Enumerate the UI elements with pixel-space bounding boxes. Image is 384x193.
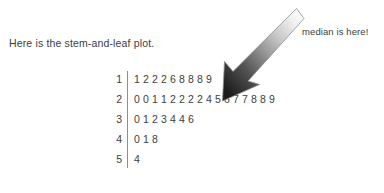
- leaf-digit: 1: [143, 129, 152, 149]
- stem-value: 3: [108, 109, 122, 129]
- leaf-digit: 2: [161, 69, 170, 89]
- stem-leaf-rows: 1 122268889 2 0011222245677889 3 0123446…: [108, 69, 278, 169]
- leaf-digit: 5: [215, 89, 224, 109]
- leaf-digit: 8: [152, 129, 161, 149]
- page-caption: Here is the stem-and-leaf plot.: [9, 37, 154, 49]
- leaf-digit: 9: [269, 89, 278, 109]
- callout-label: median is here!: [302, 26, 368, 37]
- leaf-digit: 1: [161, 89, 170, 109]
- leaf-digit: 8: [251, 89, 260, 109]
- leaf-digit: 2: [152, 109, 161, 129]
- leaf-digit: 8: [179, 69, 188, 89]
- leaf-digit: 2: [179, 89, 188, 109]
- table-row: 2 0011222245677889: [108, 89, 278, 109]
- table-row: 3 0123446: [108, 109, 278, 129]
- stem-value: 2: [108, 89, 122, 109]
- stem-value: 5: [108, 149, 122, 169]
- leaf-values: 122268889: [134, 69, 215, 89]
- leaf-values: 4: [134, 149, 143, 169]
- leaf-digit: 9: [206, 69, 215, 89]
- leaf-digit: 0: [134, 109, 143, 129]
- table-row: 1 122268889: [108, 69, 278, 89]
- table-row: 4 018: [108, 129, 278, 149]
- table-row: 5 4: [108, 149, 278, 169]
- leaf-digit: 2: [170, 89, 179, 109]
- leaf-digit: 1: [152, 89, 161, 109]
- leaf-digit: 4: [179, 109, 188, 129]
- leaf-digit: 7: [242, 89, 251, 109]
- leaf-digit: 0: [134, 89, 143, 109]
- leaf-digit: 4: [170, 109, 179, 129]
- leaf-digit: 8: [260, 89, 269, 109]
- leaf-digit: 7: [233, 89, 242, 109]
- leaf-digit: 4: [134, 149, 143, 169]
- leaf-digit: 6: [188, 109, 197, 129]
- leaf-digit: 8: [188, 69, 197, 89]
- stem-and-leaf-plot: 1 122268889 2 0011222245677889 3 0123446…: [108, 69, 278, 169]
- leaf-digit: 8: [197, 69, 206, 89]
- leaf-digit: 1: [134, 69, 143, 89]
- leaf-values: 0123446: [134, 109, 197, 129]
- leaf-digit: 2: [197, 89, 206, 109]
- leaf-values: 018: [134, 129, 161, 149]
- leaf-digit: 4: [206, 89, 215, 109]
- leaf-digit: 2: [188, 89, 197, 109]
- leaf-digit: 2: [152, 69, 161, 89]
- leaf-digit: 6: [224, 89, 233, 109]
- leaf-digit: 6: [170, 69, 179, 89]
- stem-value: 4: [108, 129, 122, 149]
- leaf-digit: 0: [143, 89, 152, 109]
- leaf-digit: 2: [143, 69, 152, 89]
- leaf-digit: 1: [143, 109, 152, 129]
- leaf-digit: 0: [134, 129, 143, 149]
- stem-value: 1: [108, 69, 122, 89]
- leaf-values: 0011222245677889: [134, 89, 278, 109]
- leaf-digit: 3: [161, 109, 170, 129]
